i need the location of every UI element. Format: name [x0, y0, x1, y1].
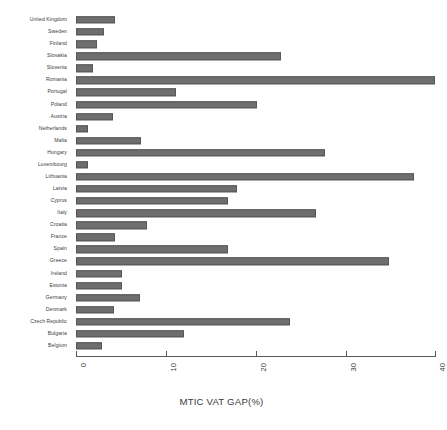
x-tick-label: 20: [260, 363, 268, 371]
bar-row: Slovenia: [76, 62, 436, 74]
bar: [76, 209, 316, 216]
category-label: United Kingdom: [30, 17, 67, 22]
bar: [76, 149, 325, 156]
x-axis: 010203040: [76, 356, 436, 357]
bar-row: Croatia: [76, 219, 436, 231]
category-label: Estonia: [49, 283, 67, 288]
bar-row: Germany: [76, 292, 436, 304]
bar: [76, 173, 414, 180]
bar-row: Sweden: [76, 26, 436, 38]
bar: [76, 318, 290, 325]
bar: [76, 234, 115, 241]
category-label: Croatia: [50, 223, 67, 228]
category-label: Italy: [57, 211, 67, 216]
category-label: Poland: [51, 102, 67, 107]
category-label: Germany: [45, 295, 67, 300]
category-label: Cyprus: [50, 199, 67, 204]
x-tick-mark: [76, 351, 77, 356]
bar-row: Greece: [76, 255, 436, 267]
bar: [76, 89, 176, 96]
plot-area: United KingdomSwedenFinlandSlovakiaSlove…: [76, 14, 436, 352]
bar-row: Ireland: [76, 268, 436, 280]
bar-row: France: [76, 231, 436, 243]
category-label: Greece: [50, 259, 67, 264]
bar: [76, 185, 237, 192]
bar-row: Finland: [76, 38, 436, 50]
category-label: Belgium: [48, 343, 67, 348]
category-label: Lithuania: [46, 174, 67, 179]
bar-row: Netherlands: [76, 123, 436, 135]
bar: [76, 28, 104, 35]
category-label: Czech Republic: [30, 319, 67, 324]
bar-row: Italy: [76, 207, 436, 219]
bar: [76, 113, 113, 120]
bar-row: Luxembourg: [76, 159, 436, 171]
category-label: Malta: [54, 138, 67, 143]
category-label: Finland: [50, 42, 67, 47]
category-label: Romania: [46, 78, 67, 83]
bar-row: Portugal: [76, 86, 436, 98]
bar-row: Slovakia: [76, 50, 436, 62]
bar-row: Cyprus: [76, 195, 436, 207]
x-tick-mark: [256, 351, 257, 356]
category-label: Netherlands: [39, 126, 67, 131]
category-label: France: [51, 235, 67, 240]
bar: [76, 258, 389, 265]
x-tick-mark: [346, 351, 347, 356]
bar: [76, 270, 122, 277]
bar-row: United Kingdom: [76, 14, 436, 26]
bar-row: Hungary: [76, 147, 436, 159]
category-label: Portugal: [47, 90, 67, 95]
bar: [76, 306, 114, 313]
category-label: Bulgaria: [48, 331, 67, 336]
bar-row: Romania: [76, 74, 436, 86]
bar: [76, 53, 281, 60]
bar: [76, 77, 435, 84]
bar: [76, 197, 228, 204]
x-tick-mark: [435, 351, 436, 356]
category-label: Slovakia: [47, 54, 67, 59]
category-label: Slovenia: [47, 66, 67, 71]
bar-row: Denmark: [76, 304, 436, 316]
category-label: Sweden: [48, 30, 67, 35]
bar: [76, 330, 184, 337]
x-tick-label: 0: [80, 363, 88, 367]
bar: [76, 65, 93, 72]
bar: [76, 161, 88, 168]
category-label: Hungary: [47, 150, 67, 155]
category-label: Ireland: [51, 271, 67, 276]
bar-row: Lithuania: [76, 171, 436, 183]
bar-row: Poland: [76, 99, 436, 111]
x-tick-label: 30: [350, 363, 358, 371]
x-tick-mark: [166, 351, 167, 356]
bar: [76, 246, 228, 253]
category-label: Latvia: [53, 186, 67, 191]
bar: [76, 222, 147, 229]
bar-row: Estonia: [76, 280, 436, 292]
category-label: Spain: [54, 247, 67, 252]
bar: [76, 137, 141, 144]
bar: [76, 40, 97, 47]
bar: [76, 294, 140, 301]
bar-row: Latvia: [76, 183, 436, 195]
bar-row: Czech Republic: [76, 316, 436, 328]
category-label: Luxembourg: [38, 162, 67, 167]
bar: [76, 342, 102, 349]
bar: [76, 125, 88, 132]
bar: [76, 101, 257, 108]
bar-row: Bulgaria: [76, 328, 436, 340]
bar-row: Spain: [76, 243, 436, 255]
category-label: Austria: [51, 114, 67, 119]
bar: [76, 282, 122, 289]
x-tick-label: 40: [439, 363, 447, 371]
x-tick-label: 10: [170, 363, 178, 371]
x-axis-title: MTIC VAT GAP(%): [0, 396, 443, 407]
category-label: Denmark: [46, 307, 67, 312]
bar: [76, 16, 115, 23]
bar-row: Austria: [76, 111, 436, 123]
bar-row: Malta: [76, 135, 436, 147]
